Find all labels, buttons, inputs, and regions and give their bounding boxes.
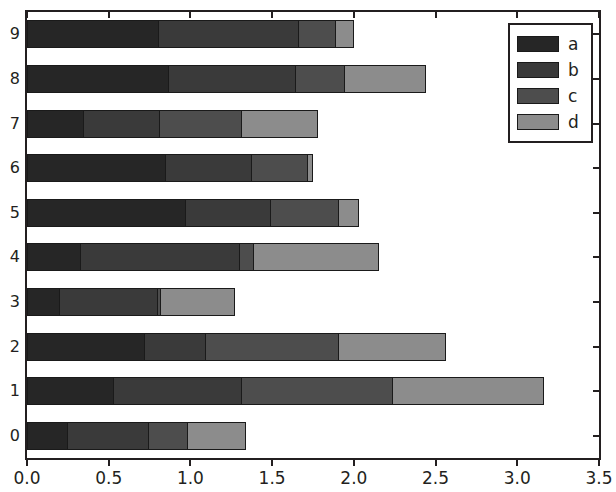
y-tick-label: 7 [2, 116, 20, 132]
legend-swatch-c [517, 88, 559, 104]
x-tick-mark [516, 460, 518, 466]
x-tick-label: 1.0 [160, 468, 220, 488]
x-tick-mark [108, 460, 110, 466]
y-tick-label: 4 [2, 249, 20, 265]
legend-entry-b: b [517, 57, 584, 83]
legend-label: a [568, 36, 578, 53]
x-axis-tick-labels: 0.00.51.01.52.02.53.03.5 [0, 460, 611, 492]
y-tick-label: 8 [2, 71, 20, 87]
x-tick-label: 0.5 [79, 468, 139, 488]
legend-entry-d: d [517, 109, 584, 135]
y-tick-label: 9 [2, 26, 20, 42]
y-tick-label: 3 [2, 294, 20, 310]
x-tick-mark [271, 460, 273, 466]
x-tick-mark [26, 460, 28, 466]
y-tick-label: 6 [2, 160, 20, 176]
y-tick-label: 5 [2, 205, 20, 221]
x-tick-mark [598, 460, 600, 466]
legend-swatch-d [517, 114, 559, 130]
x-tick-label: 2.5 [406, 468, 466, 488]
legend-entry-a: a [517, 31, 584, 57]
chart-legend: abcd [508, 23, 593, 143]
legend-swatch-a [517, 36, 559, 52]
x-tick-label: 3.5 [569, 468, 616, 488]
x-tick-label: 3.0 [487, 468, 547, 488]
y-tick-label: 2 [2, 339, 20, 355]
x-tick-label: 1.5 [242, 468, 302, 488]
legend-label: c [568, 88, 577, 105]
y-tick-label: 1 [2, 383, 20, 399]
legend-entry-c: c [517, 83, 584, 109]
x-tick-mark [189, 460, 191, 466]
x-tick-mark [353, 460, 355, 466]
legend-label: b [568, 62, 579, 79]
x-tick-label: 2.0 [324, 468, 384, 488]
x-tick-label: 0.0 [0, 468, 57, 488]
legend-swatch-b [517, 62, 559, 78]
y-tick-label: 0 [2, 428, 20, 444]
x-tick-mark [435, 460, 437, 466]
legend-label: d [568, 114, 579, 131]
